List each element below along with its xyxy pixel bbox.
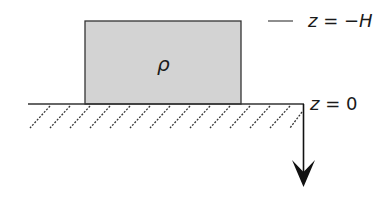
density-label: ρ: [157, 52, 170, 76]
top-level-label: z = −H: [307, 10, 373, 31]
density-block-diagram: ρ z = −H z = 0: [0, 0, 389, 203]
ground-level-label: z = 0: [309, 93, 357, 114]
ground-hatching: [30, 106, 302, 128]
